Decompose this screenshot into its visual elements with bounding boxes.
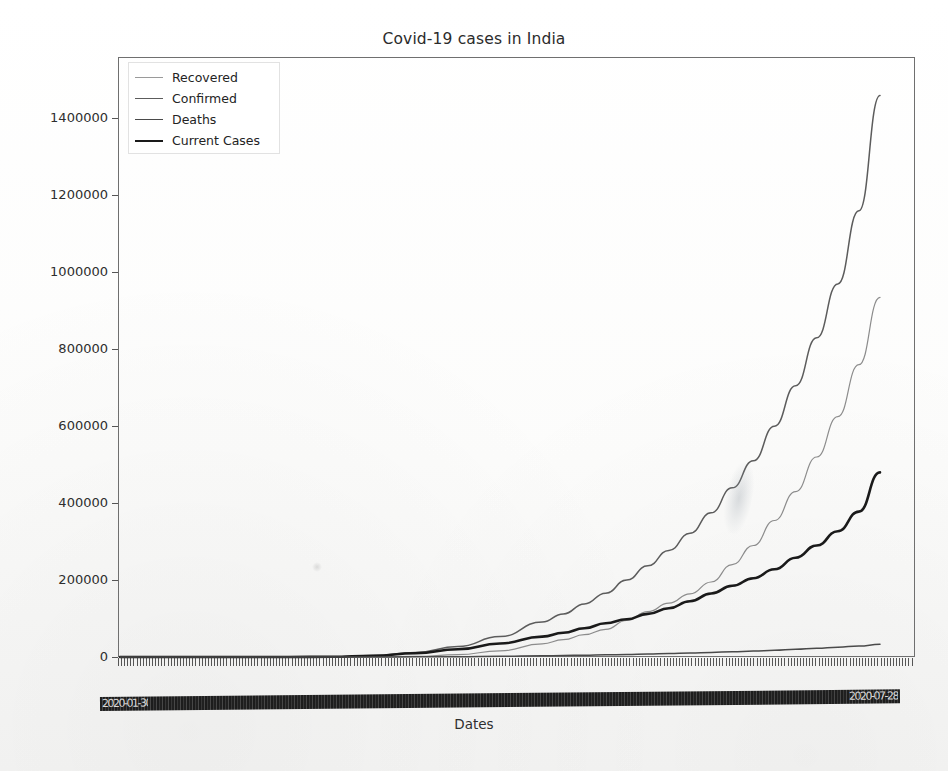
legend-item-current-cases[interactable]: Current Cases <box>135 130 273 151</box>
x-axis-label: Dates <box>0 716 948 732</box>
legend-swatch-deaths <box>135 119 163 120</box>
legend-swatch-current-cases <box>135 140 163 142</box>
x-axis-tick-marks <box>118 658 915 666</box>
legend-swatch-recovered <box>135 77 163 78</box>
legend-label-deaths: Deaths <box>172 112 216 127</box>
y-tick-label-600000: 600000 <box>30 418 108 433</box>
legend-swatch-confirmed <box>135 98 163 99</box>
y-tick-label-1000000: 1000000 <box>30 264 108 279</box>
legend-label-recovered: Recovered <box>172 70 238 85</box>
legend-item-deaths[interactable]: Deaths <box>135 109 273 130</box>
x-axis-first-date-label: 2020-01-30 <box>102 697 148 711</box>
matplotlib-figure: Covid-19 cases in India 1400000 1200000 … <box>0 0 948 771</box>
chart-legend[interactable]: Recovered Confirmed Deaths Current Cases <box>128 62 280 154</box>
legend-label-current-cases: Current Cases <box>172 133 260 148</box>
legend-item-confirmed[interactable]: Confirmed <box>135 88 273 109</box>
chart-title: Covid-19 cases in India <box>0 30 948 48</box>
y-tick-label-800000: 800000 <box>30 341 108 356</box>
x-axis-date-labels-band: 2020-01-30 2020-07-28 <box>100 689 900 711</box>
y-tick-label-0: 0 <box>30 649 108 664</box>
x-axis-last-date-label: 2020-07-28 <box>842 689 898 704</box>
legend-label-confirmed: Confirmed <box>172 91 237 106</box>
y-tick-label-1200000: 1200000 <box>30 187 108 202</box>
y-tick-label-400000: 400000 <box>30 495 108 510</box>
legend-item-recovered[interactable]: Recovered <box>135 67 273 88</box>
y-tick-label-1400000: 1400000 <box>30 110 108 125</box>
y-tick-label-200000: 200000 <box>30 572 108 587</box>
